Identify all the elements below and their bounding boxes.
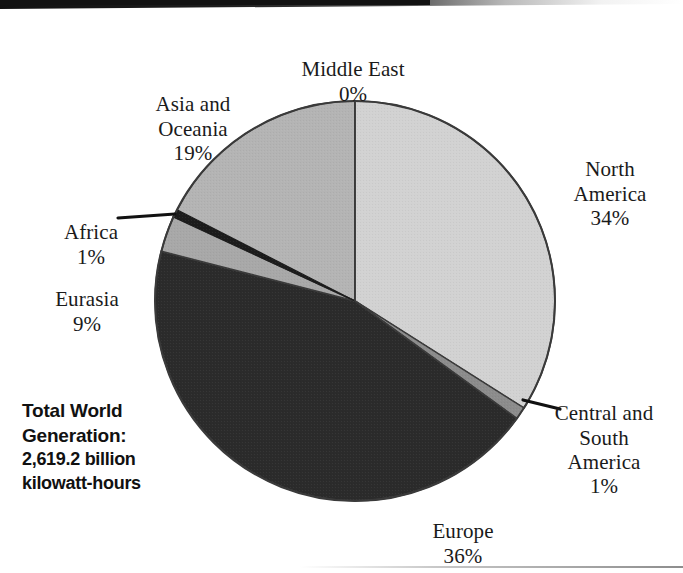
slice-label-asia-oceania: Asia and Oceania 19% <box>103 68 283 190</box>
slice-label-north-america-name: North America <box>574 157 647 205</box>
slice-label-central-south-america-name: Central and South America <box>555 401 653 474</box>
slice-label-middle-east-name: Middle East <box>301 57 404 81</box>
pie-chart-figure: Middle East 0% Asia and Oceania 19% Afri… <box>0 0 683 573</box>
slice-label-north-america-pct: 34% <box>540 206 680 230</box>
slice-label-asia-oceania-pct: 19% <box>103 141 283 165</box>
total-value-line1: 2,619.2 billion <box>22 448 212 472</box>
total-heading-line2: Generation: <box>22 423 212 448</box>
total-value-line2: kilowatt-hours <box>22 472 212 496</box>
slice-label-central-south-america-pct: 1% <box>528 474 680 498</box>
slice-label-asia-oceania-name: Asia and Oceania <box>156 92 231 140</box>
slice-label-eurasia-name: Eurasia <box>55 287 119 311</box>
slice-label-eurasia-pct: 9% <box>12 312 162 336</box>
slice-label-europe-name: Europe <box>432 519 493 543</box>
slice-label-europe-pct: 36% <box>398 544 528 568</box>
slice-label-north-america: North America 34% <box>540 133 680 255</box>
slice-label-central-south-america: Central and South America 1% <box>528 377 680 523</box>
total-heading-line1: Total World <box>22 398 212 423</box>
slice-label-africa-name: Africa <box>64 220 118 244</box>
slice-label-eurasia: Eurasia 9% <box>12 263 162 360</box>
total-world-generation-annotation: Total World Generation: 2,619.2 billion … <box>22 398 212 496</box>
slice-label-middle-east: Middle East 0% <box>253 33 453 130</box>
slice-label-europe: Europe 36% <box>398 495 528 573</box>
slice-label-middle-east-pct: 0% <box>253 82 453 106</box>
